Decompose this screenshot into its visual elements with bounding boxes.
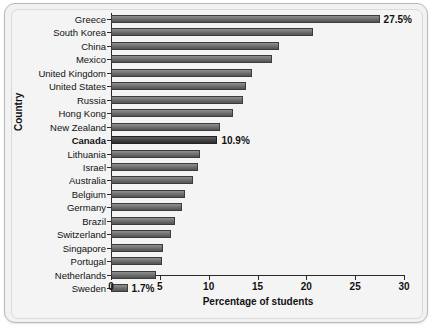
category-label: Switzerland bbox=[57, 230, 106, 240]
category-label: Lithuania bbox=[67, 150, 106, 160]
category-label: Russia bbox=[77, 96, 106, 106]
bar-row bbox=[111, 215, 404, 228]
category-label: New Zealand bbox=[50, 123, 106, 133]
bar bbox=[111, 217, 175, 225]
x-axis-tick-label: 25 bbox=[350, 281, 361, 292]
x-axis-tick bbox=[209, 276, 210, 280]
category-label: Greece bbox=[75, 15, 106, 25]
category-label: Hong Kong bbox=[58, 109, 106, 119]
bar bbox=[111, 271, 156, 279]
bar-row bbox=[111, 201, 404, 214]
bar bbox=[111, 257, 162, 265]
category-label: Brazil bbox=[82, 217, 106, 227]
bar-row bbox=[111, 53, 404, 66]
bar-row bbox=[111, 67, 404, 80]
category-label: South Korea bbox=[53, 28, 106, 38]
bar-value-label: 1.7% bbox=[132, 284, 155, 294]
bar bbox=[111, 109, 233, 117]
bar bbox=[111, 163, 198, 171]
category-label: Sweden bbox=[72, 284, 106, 294]
bar bbox=[111, 96, 243, 104]
category-label: Netherlands bbox=[55, 271, 106, 281]
bar-row bbox=[111, 255, 404, 268]
bar-row bbox=[111, 161, 404, 174]
bar-value-label: 27.5% bbox=[384, 15, 412, 25]
bar-row bbox=[111, 13, 404, 26]
bar-row bbox=[111, 242, 404, 255]
bar bbox=[111, 150, 200, 158]
bar bbox=[111, 42, 279, 50]
bar-row bbox=[111, 80, 404, 93]
bar bbox=[111, 230, 171, 238]
x-axis-tick bbox=[306, 276, 307, 280]
category-label: China bbox=[81, 42, 106, 52]
category-label: Portugal bbox=[71, 257, 106, 267]
bar bbox=[111, 69, 252, 77]
x-axis-tick bbox=[111, 276, 112, 280]
bar bbox=[111, 55, 272, 63]
bar bbox=[111, 15, 380, 23]
category-label: Canada bbox=[72, 136, 106, 146]
bar-row bbox=[111, 107, 404, 120]
x-axis-tick bbox=[160, 276, 161, 280]
category-label: Mexico bbox=[76, 55, 106, 65]
x-axis-tick bbox=[258, 276, 259, 280]
bar-row bbox=[111, 148, 404, 161]
chart-figure: Country 051015202530 Percentage of stude… bbox=[0, 0, 433, 328]
bar bbox=[111, 82, 246, 90]
x-axis-tick-label: 30 bbox=[398, 281, 409, 292]
y-axis-title: Country bbox=[13, 93, 24, 131]
category-label: Israel bbox=[83, 163, 106, 173]
x-axis-tick-label: 5 bbox=[157, 281, 163, 292]
x-axis-tick-label: 10 bbox=[203, 281, 214, 292]
category-label: United States bbox=[49, 82, 106, 92]
category-label: Belgium bbox=[72, 190, 106, 200]
x-axis-tick-label: 15 bbox=[252, 281, 263, 292]
bar bbox=[111, 176, 193, 184]
x-axis-tick-label: 20 bbox=[301, 281, 312, 292]
bar-value-label: 10.9% bbox=[221, 136, 249, 146]
x-axis-title: Percentage of students bbox=[111, 296, 405, 307]
x-axis-tick bbox=[404, 276, 405, 280]
bar bbox=[111, 203, 182, 211]
bar-row bbox=[111, 94, 404, 107]
bar bbox=[111, 190, 185, 198]
bar-row bbox=[111, 26, 404, 39]
bar bbox=[111, 136, 217, 144]
bar bbox=[111, 244, 163, 252]
bar-row bbox=[111, 40, 404, 53]
bar-row bbox=[111, 174, 404, 187]
x-axis-tick bbox=[355, 276, 356, 280]
bar-row bbox=[111, 134, 404, 147]
category-label: Singapore bbox=[63, 244, 106, 254]
x-axis-tick-label: 0 bbox=[108, 281, 114, 292]
bar bbox=[111, 28, 313, 36]
bar-row bbox=[111, 188, 404, 201]
category-label: United Kingdom bbox=[38, 69, 106, 79]
bar-row bbox=[111, 121, 404, 134]
plot-area bbox=[111, 13, 404, 275]
category-label: Germany bbox=[67, 203, 106, 213]
category-label: Australia bbox=[69, 176, 106, 186]
bar-row bbox=[111, 228, 404, 241]
bar bbox=[111, 123, 220, 131]
